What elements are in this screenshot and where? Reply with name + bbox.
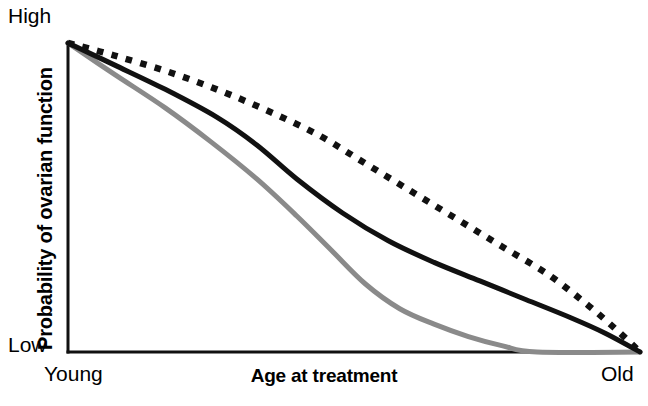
series-line-intermediate-gonadotoxicity [68,43,640,352]
series-line-low-gonadotoxicity [68,43,640,352]
series-line-high-gonadotoxicity [68,43,640,352]
plot-area [0,0,648,406]
figure-ovarian-function-chart: Probability of ovarian function High Low… [0,0,648,406]
